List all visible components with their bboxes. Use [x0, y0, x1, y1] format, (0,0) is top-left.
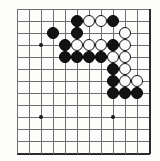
grid-line-horizontal: [17, 153, 150, 155]
grid-line-horizontal: [17, 9, 150, 10]
white-stone[interactable]: [119, 27, 131, 39]
black-stone[interactable]: [71, 51, 83, 63]
goban-grid: [0, 0, 160, 161]
white-stone[interactable]: [95, 39, 107, 51]
white-stone[interactable]: [119, 39, 131, 51]
black-stone[interactable]: [83, 51, 95, 63]
black-stone[interactable]: [107, 87, 119, 99]
grid-line-vertical: [65, 9, 66, 154]
white-stone[interactable]: [95, 15, 107, 27]
white-stone[interactable]: [131, 75, 143, 87]
grid-line-vertical: [17, 9, 18, 154]
black-stone[interactable]: [131, 87, 143, 99]
black-stone[interactable]: [47, 27, 59, 39]
go-board-figure: [0, 0, 160, 161]
grid-line-vertical: [101, 9, 102, 154]
white-stone[interactable]: [119, 63, 131, 75]
grid-line-horizontal: [17, 117, 150, 118]
white-stone[interactable]: [83, 15, 95, 27]
black-stone[interactable]: [107, 75, 119, 87]
black-stone[interactable]: [107, 39, 119, 51]
black-stone[interactable]: [107, 63, 119, 75]
star-point: [39, 43, 43, 47]
black-stone[interactable]: [95, 51, 107, 63]
star-point: [39, 115, 43, 119]
grid-line-vertical: [41, 9, 42, 154]
white-stone[interactable]: [107, 51, 119, 63]
black-stone[interactable]: [119, 87, 131, 99]
black-stone[interactable]: [59, 51, 71, 63]
grid-line-vertical: [29, 9, 30, 154]
star-point: [111, 115, 115, 119]
grid-line-horizontal: [17, 105, 150, 106]
white-stone[interactable]: [119, 51, 131, 63]
white-stone[interactable]: [71, 39, 83, 51]
grid-line-vertical: [149, 9, 151, 154]
black-stone[interactable]: [107, 15, 119, 27]
black-stone[interactable]: [59, 39, 71, 51]
grid-line-horizontal: [17, 129, 150, 130]
grid-line-vertical: [89, 9, 90, 154]
black-stone[interactable]: [71, 27, 83, 39]
grid-line-horizontal: [17, 141, 150, 142]
white-stone[interactable]: [119, 75, 131, 87]
white-stone[interactable]: [83, 39, 95, 51]
black-stone[interactable]: [71, 15, 83, 27]
